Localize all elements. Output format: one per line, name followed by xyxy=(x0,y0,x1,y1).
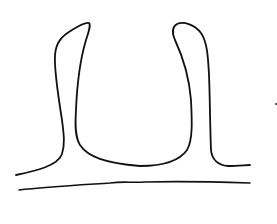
drawing-canvas xyxy=(0,0,277,224)
u-shape-outline xyxy=(16,23,250,175)
u-shape-diagram xyxy=(0,0,277,224)
stray-dot xyxy=(275,103,277,105)
ground-line xyxy=(19,182,250,190)
